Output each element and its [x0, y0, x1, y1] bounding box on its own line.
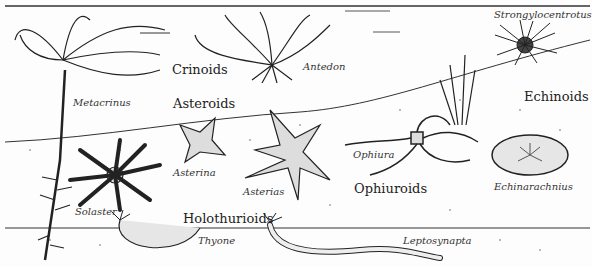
- label-metacrinus: Metacrinus: [73, 98, 131, 108]
- label-ophiuroids: Ophiuroids: [354, 182, 427, 195]
- label-thyone: Thyone: [198, 236, 235, 246]
- label-asterina: Asterina: [173, 168, 216, 178]
- label-echinoids: Echinoids: [524, 90, 589, 103]
- label-asteroids: Asteroids: [173, 97, 235, 110]
- label-solaster: Solaster: [75, 207, 117, 217]
- label-holothurioids: Holothurioids: [183, 212, 273, 225]
- line-drawing: [0, 0, 592, 267]
- label-strongylocentrotus: Strongylocentrotus: [494, 10, 592, 20]
- label-leptosynapta: Leptosynapta: [403, 236, 472, 246]
- label-asterias: Asterias: [243, 187, 284, 197]
- label-ophiura: Ophiura: [353, 150, 394, 160]
- label-antedon: Antedon: [303, 62, 345, 72]
- label-echinarachnius: Echinarachnius: [494, 182, 573, 192]
- label-crinoids: Crinoids: [172, 63, 228, 76]
- echinoderm-illustration: Crinoids Asteroids Echinoids Ophiuroids …: [0, 0, 592, 267]
